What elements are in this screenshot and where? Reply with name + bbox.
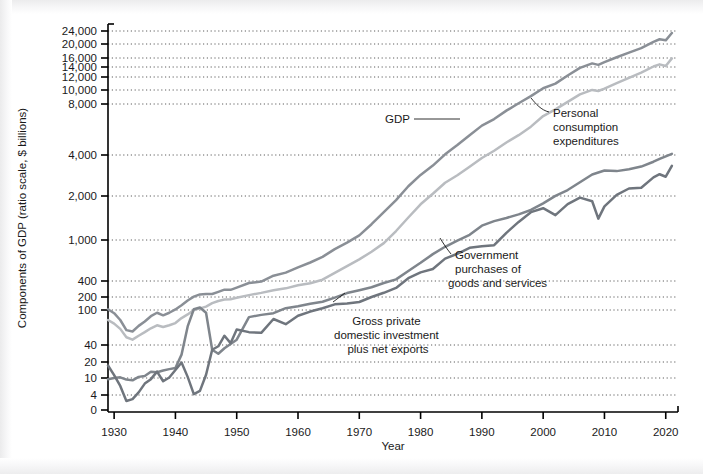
x-axis-title: Year <box>381 440 404 452</box>
y-tick-label-400: 400 <box>78 275 97 287</box>
y-tick-label-10: 10 <box>84 372 97 384</box>
y-tick-label-200: 200 <box>78 291 97 303</box>
x-tick-label-1960: 1960 <box>285 426 311 438</box>
x-tick-label-1950: 1950 <box>224 426 250 438</box>
y-tick-label-1000: 1,000 <box>68 234 97 246</box>
series-label-government-line-2: purchases of <box>455 263 522 275</box>
series-label-pce-line-3: expenditures <box>553 135 619 147</box>
series-label-pce-line-1: Personal <box>553 107 598 119</box>
series-label-government-line-3: goods and services <box>448 277 547 289</box>
y-tick-label-4000: 4,000 <box>68 149 97 161</box>
x-tick-group: 1930194019501960197019801990200020102020 <box>101 412 678 438</box>
y-tick-label-2000: 2,000 <box>68 190 97 202</box>
line-chart-plot: 041020401002004001,0002,0004,0008,00010,… <box>0 0 703 474</box>
x-tick-label-2000: 2000 <box>530 426 556 438</box>
y-tick-label-0: 0 <box>91 404 97 416</box>
series-label-government-line-1: Government <box>455 249 519 261</box>
y-tick-label-100: 100 <box>78 304 97 316</box>
series-label-pce-line-2: consumption <box>553 121 618 133</box>
x-tick-label-1980: 1980 <box>408 426 434 438</box>
x-tick-label-1930: 1930 <box>101 426 127 438</box>
x-tick-label-1990: 1990 <box>469 426 495 438</box>
series-label-government: Government purchases of goods and servic… <box>448 249 547 289</box>
series-label-investment-line-3: plus net exports <box>347 343 428 355</box>
series-label-investment-line-1: Gross private <box>352 315 420 327</box>
y-axis-title: Components of GDP (ratio scale, $ billio… <box>16 108 28 328</box>
x-tick-label-1940: 1940 <box>163 426 189 438</box>
leader-line-pce <box>531 98 549 112</box>
y-tick-label-10000: 10,000 <box>62 84 97 96</box>
series-line-gross-private-domestic-investment-plus-net-exports <box>108 166 672 401</box>
chart-figure: 041020401002004001,0002,0004,0008,00010,… <box>0 0 703 474</box>
series-label-investment-line-2: domestic investment <box>334 329 440 341</box>
x-tick-label-2020: 2020 <box>653 426 679 438</box>
x-tick-label-2010: 2010 <box>592 426 618 438</box>
y-tick-label-16000: 16,000 <box>62 52 97 64</box>
y-tick-label-4: 4 <box>91 389 98 401</box>
series-line-gdp <box>108 33 672 331</box>
series-label-gdp: GDP <box>385 113 410 125</box>
y-tick-label-40: 40 <box>84 339 97 351</box>
y-tick-label-8000: 8,000 <box>68 98 97 110</box>
series-label-investment: Gross private domestic investment plus n… <box>334 315 442 355</box>
y-tick-group: 041020401002004001,0002,0004,0008,00010,… <box>62 25 108 416</box>
x-tick-label-1970: 1970 <box>346 426 372 438</box>
y-tick-label-20: 20 <box>84 356 97 368</box>
y-tick-label-20000: 20,000 <box>62 38 97 50</box>
series-label-pce: Personal consumption expenditures <box>553 107 621 147</box>
y-tick-label-24000: 24,000 <box>62 25 97 37</box>
